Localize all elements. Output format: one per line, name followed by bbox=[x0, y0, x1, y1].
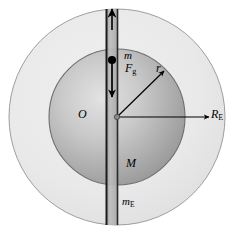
physics-diagram-earth-tunnel: O m Fg r RE M mE bbox=[0, 0, 236, 232]
particle-mass-m bbox=[108, 56, 116, 64]
label-earth-mass: mE bbox=[122, 196, 135, 207]
label-particle-mass: m bbox=[124, 50, 132, 61]
label-gravity-force: Fg bbox=[125, 62, 136, 74]
label-earth-mass-subscript: E bbox=[130, 200, 135, 209]
diagram-canvas bbox=[0, 0, 236, 232]
label-earth-radius-subscript: E bbox=[218, 113, 223, 122]
label-origin: O bbox=[78, 108, 87, 120]
origin-point bbox=[114, 114, 119, 119]
label-radius-r: r bbox=[156, 62, 161, 74]
label-earth-radius: RE bbox=[211, 108, 223, 120]
label-earth-mass-base: m bbox=[122, 195, 130, 207]
label-enclosed-mass: M bbox=[126, 157, 136, 169]
label-gravity-force-subscript: g bbox=[132, 67, 136, 76]
